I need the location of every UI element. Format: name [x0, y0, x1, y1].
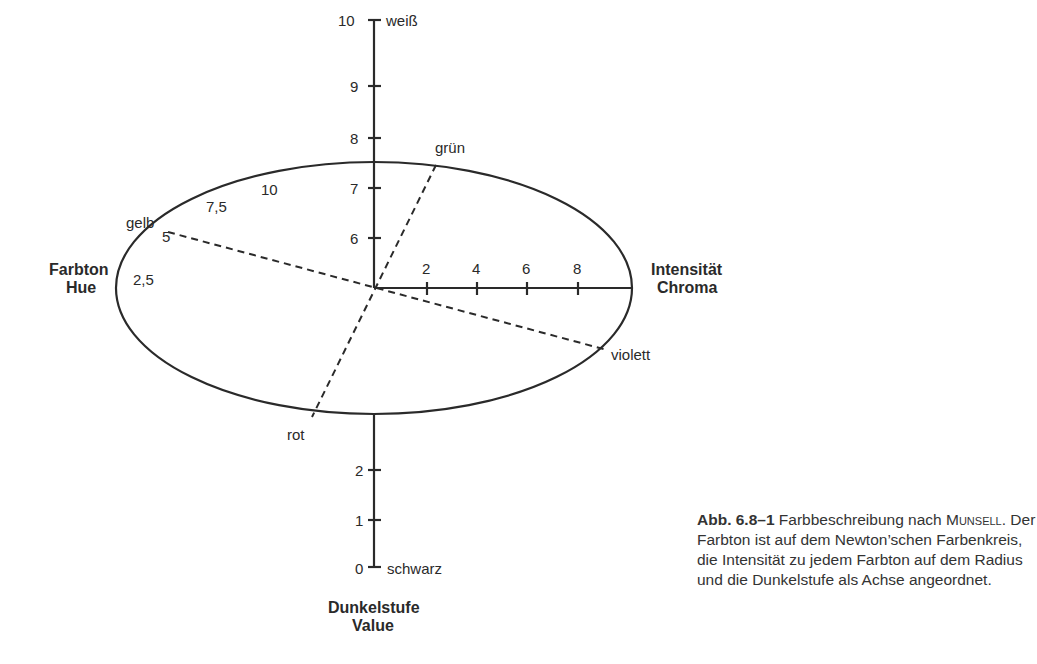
- hue-line-gelb-violett: [168, 232, 607, 350]
- label-weiss: weiß: [385, 12, 418, 29]
- axis-title-dunkelstufe: Dunkelstufe: [328, 599, 420, 616]
- label-v0: 0: [355, 560, 363, 577]
- label-h10: 10: [261, 181, 278, 198]
- caption-name: Munsell: [946, 511, 1002, 528]
- axis-title-farbton: Farbton: [49, 261, 109, 278]
- label-v10: 10: [338, 12, 355, 29]
- label-violett: violett: [611, 346, 651, 363]
- caption-number: Abb. 6.8–1: [697, 511, 775, 528]
- label-c8: 8: [573, 260, 581, 277]
- label-c6: 6: [522, 260, 530, 277]
- caption-text-a: Farbbeschreibung nach: [775, 511, 946, 528]
- axis-title-intensitaet: Intensität: [651, 261, 723, 278]
- label-schwarz: schwarz: [387, 560, 442, 577]
- figure-caption: Abb. 6.8–1 Farbbeschreibung nach Munsell…: [697, 510, 1037, 590]
- label-h75: 7,5: [206, 198, 227, 215]
- label-v9: 9: [350, 78, 358, 95]
- label-v1: 1: [355, 512, 363, 529]
- label-gruen: grün: [435, 139, 465, 156]
- label-h5: 5: [162, 228, 170, 245]
- label-v7: 7: [350, 180, 358, 197]
- label-c4: 4: [472, 260, 480, 277]
- label-rot: rot: [287, 426, 305, 443]
- label-c2: 2: [422, 260, 430, 277]
- axis-title-chroma: Chroma: [657, 279, 718, 296]
- label-h25: 2,5: [133, 271, 154, 288]
- axis-title-hue: Hue: [66, 279, 96, 296]
- axis-title-value: Value: [352, 617, 394, 634]
- label-gelb: gelb: [126, 214, 154, 231]
- label-v8: 8: [350, 130, 358, 147]
- label-v2: 2: [355, 462, 363, 479]
- label-v6: 6: [350, 230, 358, 247]
